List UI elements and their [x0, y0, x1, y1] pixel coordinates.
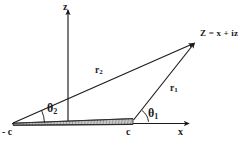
r2-vector-line: [13, 44, 194, 124]
complex-plane-figure: z x - c c r1 r2 θ1 θ2 Z = x + iz: [0, 0, 245, 142]
theta2-arc: [42, 110, 45, 123]
x-axis-label: x: [178, 127, 183, 137]
left-branch-point-label: - c: [2, 127, 12, 137]
z-axis-label: z: [63, 2, 67, 12]
theta2-label: θ2: [47, 102, 57, 116]
branch-cut-band: [13, 119, 133, 126]
r1-vector-line: [134, 43, 195, 120]
r2-label: r2: [95, 66, 103, 76]
right-branch-point-label: c: [126, 127, 130, 137]
r1-label-subscript: 1: [174, 86, 178, 94]
theta1-label-subscript: 1: [154, 112, 158, 121]
figure-canvas: [0, 0, 245, 142]
theta2-label-subscript: 2: [53, 107, 57, 116]
r1-label: r1: [170, 84, 178, 94]
r2-label-subscript: 2: [99, 68, 103, 76]
field-point-label: Z = x + iz: [200, 29, 238, 38]
theta1-label: θ1: [148, 107, 158, 121]
